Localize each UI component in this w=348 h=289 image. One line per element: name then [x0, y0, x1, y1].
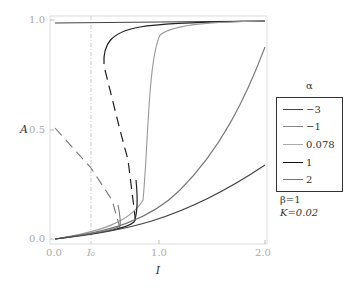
y-tick-1: 1.0: [29, 14, 45, 25]
line-swatch-icon: [283, 162, 303, 163]
x-tick-2: 2.0: [255, 247, 271, 258]
legend-item: 1: [283, 155, 312, 169]
line-swatch-icon: [283, 109, 303, 110]
curve-alpha-2-unstable: [55, 128, 120, 228]
curve-alpha-1-upper: [104, 21, 265, 64]
legend-item: −1: [283, 119, 321, 133]
line-swatch-icon: [283, 126, 303, 127]
x-tick-0: 0.0: [46, 247, 62, 258]
x-tick-i0: I₀: [86, 247, 95, 258]
y-tick-05: 0.5: [29, 124, 45, 135]
curve-alpha-2-rising: [55, 47, 265, 239]
y-tick-0: 0.0: [29, 233, 45, 244]
x-tick-1: 1.0: [151, 247, 167, 258]
line-swatch-icon: [283, 144, 303, 145]
x-axis-label: I: [155, 264, 161, 277]
legend-title: α: [276, 80, 343, 91]
param-beta: β=1: [280, 194, 301, 205]
curve-alpha-minus1: [55, 165, 265, 239]
line-swatch-icon: [283, 179, 303, 180]
legend-item: 0.078: [283, 137, 335, 151]
param-k: K=0.02: [280, 207, 318, 218]
legend-item: −3: [283, 102, 321, 116]
plot-frame: [50, 16, 267, 244]
curve-alpha-1-unstable: [105, 70, 136, 225]
y-axis-label: A: [19, 123, 28, 136]
legend: −3 −1 0.078 1 2: [276, 97, 343, 192]
legend-item: 2: [283, 172, 312, 186]
